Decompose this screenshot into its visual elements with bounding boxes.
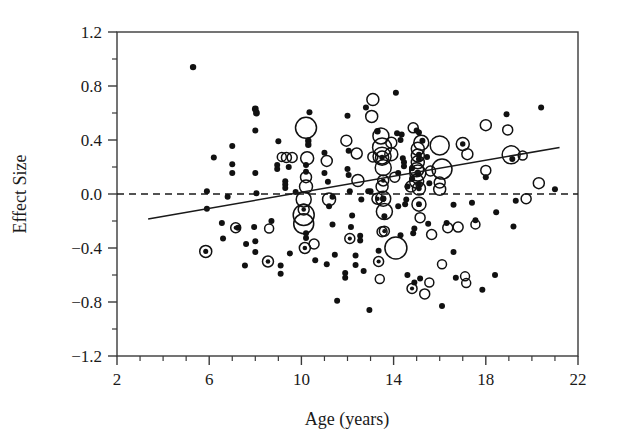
data-point-open <box>386 137 397 148</box>
data-point-filled <box>552 186 558 192</box>
data-point-open <box>368 152 378 162</box>
data-point-open <box>420 289 430 299</box>
data-point-filled <box>366 307 372 313</box>
data-point-open <box>294 214 314 234</box>
y-tick-label: 1.2 <box>81 23 102 42</box>
data-point-open <box>533 178 544 189</box>
data-point-filled <box>330 221 336 227</box>
data-point-filled <box>353 262 359 268</box>
data-point-filled <box>393 90 399 96</box>
data-point-filled <box>312 257 318 263</box>
y-tick-label: −0.4 <box>71 239 102 258</box>
data-point-filled <box>190 64 196 70</box>
y-tick-label: 0.4 <box>81 131 103 150</box>
data-point-filled <box>453 275 459 281</box>
data-point-filled <box>268 218 274 224</box>
data-point-open <box>425 278 434 287</box>
data-point-filled <box>469 200 475 206</box>
data-point-filled <box>425 221 431 227</box>
data-point-open <box>503 125 513 135</box>
x-axis-label: Age (years) <box>305 409 389 430</box>
data-point-filled <box>332 252 338 258</box>
data-point-filled <box>402 201 408 207</box>
data-point-open <box>352 175 364 187</box>
data-point-center-dot <box>375 196 380 201</box>
data-point-open <box>309 239 319 249</box>
data-point-filled <box>451 202 457 208</box>
x-tick-label: 22 <box>570 370 587 389</box>
data-point-open <box>277 152 286 161</box>
data-point-filled <box>395 203 401 209</box>
data-point-filled <box>306 109 312 115</box>
data-point-filled <box>278 271 284 277</box>
axis-ticks <box>108 32 578 365</box>
data-point-open <box>462 149 473 160</box>
data-point-filled <box>211 155 217 161</box>
y-axis-tick-labels: −1.2−0.8−0.40.00.40.81.2 <box>71 23 102 366</box>
data-point-filled <box>345 113 351 119</box>
data-point-filled <box>303 162 309 168</box>
data-point-filled <box>357 238 363 244</box>
data-point-filled <box>225 194 231 200</box>
data-point-filled <box>204 188 210 194</box>
data-point-filled <box>479 287 485 293</box>
data-point-open <box>375 275 384 284</box>
data-point-filled <box>345 166 351 172</box>
data-point-filled <box>493 209 499 215</box>
data-point-center-dot <box>266 259 271 264</box>
y-tick-label: 0.0 <box>81 185 102 204</box>
data-point-center-dot <box>410 286 414 290</box>
data-point-filled <box>404 184 410 190</box>
data-point-filled <box>358 196 364 202</box>
data-point-open <box>366 110 378 122</box>
data-point-filled <box>219 220 225 226</box>
data-point-filled <box>252 128 258 134</box>
data-point-filled <box>274 166 280 172</box>
data-point-center-dot <box>203 249 208 254</box>
data-point-filled <box>334 298 340 304</box>
data-point-open <box>287 153 297 163</box>
data-point-open <box>415 213 425 223</box>
data-point-filled <box>439 303 445 309</box>
data-point-filled <box>253 110 260 117</box>
data-point-open <box>341 135 352 146</box>
data-point-filled <box>287 250 293 256</box>
data-point-open <box>462 279 471 288</box>
data-point-filled <box>325 179 331 185</box>
data-point-filled <box>483 174 489 180</box>
data-point-filled <box>282 185 288 191</box>
data-point-filled <box>286 164 292 170</box>
data-point-filled <box>349 213 355 219</box>
data-point-center-dot <box>234 226 238 230</box>
data-point-center-dot <box>301 207 306 212</box>
data-point-filled <box>376 248 382 254</box>
data-point-open <box>434 183 446 195</box>
data-point-filled <box>243 241 249 247</box>
data-point-filled <box>330 194 336 200</box>
data-point-filled <box>305 142 311 148</box>
data-point-filled <box>252 249 258 255</box>
data-point-filled <box>401 163 407 169</box>
data-point-filled <box>229 161 235 167</box>
data-point-center-dot <box>460 141 465 146</box>
data-point-filled <box>504 111 510 117</box>
data-point-filled <box>417 275 423 281</box>
data-point-filled <box>321 170 327 176</box>
data-point-filled <box>410 230 416 236</box>
x-tick-label: 18 <box>477 370 494 389</box>
x-tick-label: 14 <box>385 370 403 389</box>
data-point-open <box>453 222 463 232</box>
data-point-open <box>385 237 407 259</box>
data-point-filled <box>492 272 498 278</box>
x-tick-label: 6 <box>205 370 214 389</box>
data-point-open <box>480 120 491 131</box>
y-tick-label: −1.2 <box>71 347 102 366</box>
x-tick-label: 2 <box>113 370 122 389</box>
data-point-open <box>385 148 398 161</box>
data-point-open <box>521 194 531 204</box>
data-point-filled <box>409 165 415 171</box>
data-point-filled <box>398 137 404 143</box>
y-tick-label: −0.8 <box>71 293 102 312</box>
data-point-filled <box>398 232 404 238</box>
data-point-filled <box>342 275 348 281</box>
